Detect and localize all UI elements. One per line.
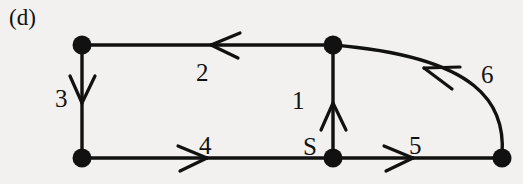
graph-node-top-middle[interactable] [324, 36, 343, 55]
graph-node-bottom-right[interactable] [493, 149, 512, 168]
edge-label-1: 1 [292, 88, 305, 113]
edge-label-6: 6 [481, 62, 494, 87]
graph-node-source-s[interactable] [324, 149, 343, 168]
edge-label-5: 5 [409, 133, 422, 158]
graph-node-bottom-left[interactable] [73, 149, 92, 168]
graph-node-top-left[interactable] [73, 36, 92, 55]
directed-graph-diagram [0, 0, 523, 184]
node-label-s: S [303, 134, 317, 159]
edge-label-3: 3 [55, 86, 68, 111]
arrowhead-edge-6 [424, 67, 460, 89]
edge-label-2: 2 [196, 60, 209, 85]
edge-label-4: 4 [199, 133, 212, 158]
figure-panel: (d) [0, 0, 523, 184]
